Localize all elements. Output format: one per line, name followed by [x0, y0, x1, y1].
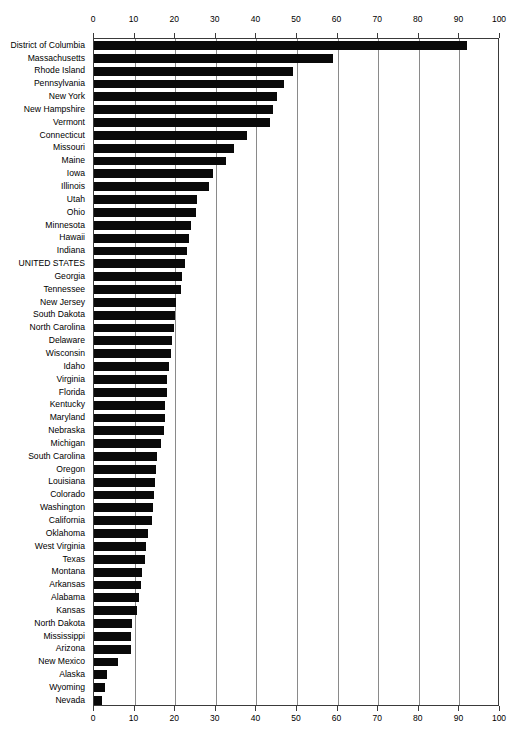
bar [94, 645, 131, 654]
category-label: Nevada [55, 695, 85, 705]
bars-layer [94, 39, 498, 705]
category-label: Colorado [50, 489, 85, 499]
bar [94, 349, 171, 358]
bar [94, 632, 131, 641]
bar [94, 555, 145, 564]
category-label: Tennessee [43, 284, 85, 294]
x-tick-label-bot-80: 80 [413, 712, 422, 724]
bar [94, 619, 132, 628]
bar [94, 568, 142, 577]
bar [94, 658, 118, 667]
bar [94, 131, 247, 140]
category-label: Minnesota [45, 220, 85, 230]
category-label: Delaware [49, 335, 85, 345]
category-label: South Carolina [28, 451, 85, 461]
bar [94, 67, 293, 76]
x-tick-label-bot-10: 10 [129, 712, 138, 724]
bar [94, 439, 161, 448]
x-tick-label-bot-100: 100 [492, 712, 506, 724]
bar [94, 542, 146, 551]
bar [94, 105, 273, 114]
x-tick-bot-10 [134, 706, 135, 711]
bar [94, 272, 182, 281]
category-label: Illinois [61, 181, 85, 191]
bar [94, 670, 107, 679]
bar [94, 696, 102, 705]
bar [94, 491, 154, 500]
bar [94, 593, 139, 602]
category-label: Louisiana [48, 476, 85, 486]
bar [94, 401, 165, 410]
category-label: Pennsylvania [34, 78, 85, 88]
category-label: Arkansas [49, 579, 85, 589]
bar [94, 683, 105, 692]
category-label: Georgia [54, 271, 85, 281]
category-label: Iowa [67, 168, 85, 178]
bar [94, 285, 181, 294]
x-tick-label-top-0: 0 [91, 13, 96, 25]
bar [94, 362, 169, 371]
x-tick-bot-40 [255, 706, 256, 711]
category-label: West Virginia [35, 541, 85, 551]
x-tick-label-bot-90: 90 [454, 712, 463, 724]
category-label: Massachusetts [28, 53, 85, 63]
x-tick-label-bot-50: 50 [291, 712, 300, 724]
bar [94, 426, 164, 435]
category-label: Alaska [59, 669, 85, 679]
bar [94, 208, 196, 217]
x-tick-bot-100 [499, 706, 500, 711]
x-tick-label-bot-40: 40 [251, 712, 260, 724]
x-axis-labels-top: 0102030405060708090100 [93, 13, 499, 25]
x-tick-label-bot-20: 20 [169, 712, 178, 724]
x-tick-label-bot-70: 70 [372, 712, 381, 724]
category-label: Washington [40, 502, 85, 512]
bar [94, 581, 141, 590]
bar [94, 92, 277, 101]
category-label: Indiana [57, 245, 85, 255]
category-label: New Hampshire [24, 104, 85, 114]
bar [94, 195, 197, 204]
category-label: Nebraska [48, 425, 85, 435]
bar [94, 169, 213, 178]
x-tick-label-top-50: 50 [291, 13, 300, 25]
x-axis-ticks-bottom [93, 706, 499, 711]
bar [94, 478, 155, 487]
bar [94, 118, 270, 127]
x-tick-label-top-60: 60 [332, 13, 341, 25]
category-label: Maine [62, 155, 85, 165]
category-label: Kansas [56, 605, 85, 615]
x-tick-label-top-10: 10 [129, 13, 138, 25]
category-label: Maryland [50, 412, 85, 422]
bar [94, 529, 148, 538]
x-tick-label-bot-0: 0 [91, 712, 96, 724]
bar [94, 452, 157, 461]
category-label: California [49, 515, 85, 525]
bar [94, 54, 333, 63]
bar [94, 336, 172, 345]
x-tick-label-top-90: 90 [454, 13, 463, 25]
bar-chart: 0102030405060708090100 District of Colum… [0, 0, 512, 730]
x-tick-label-bot-30: 30 [210, 712, 219, 724]
bar [94, 247, 187, 256]
x-tick-label-bot-60: 60 [332, 712, 341, 724]
category-label: Idaho [63, 361, 85, 371]
category-label: North Carolina [30, 322, 85, 332]
y-axis-category-labels: District of ColumbiaMassachusettsRhode I… [0, 38, 89, 706]
category-label: Rhode Island [34, 65, 85, 75]
x-tick-bot-0 [93, 706, 94, 711]
x-axis-labels-bottom: 0102030405060708090100 [93, 712, 499, 724]
bar [94, 375, 167, 384]
x-tick-bot-70 [377, 706, 378, 711]
x-tick-label-top-20: 20 [169, 13, 178, 25]
bar [94, 606, 137, 615]
category-label: Kentucky [50, 399, 85, 409]
bar [94, 157, 226, 166]
x-tick-label-top-70: 70 [372, 13, 381, 25]
bar [94, 182, 209, 191]
x-tick-bot-60 [337, 706, 338, 711]
x-tick-label-top-80: 80 [413, 13, 422, 25]
bar [94, 298, 176, 307]
x-tick-bot-50 [296, 706, 297, 711]
category-label: Montana [52, 566, 85, 576]
bar [94, 259, 185, 268]
